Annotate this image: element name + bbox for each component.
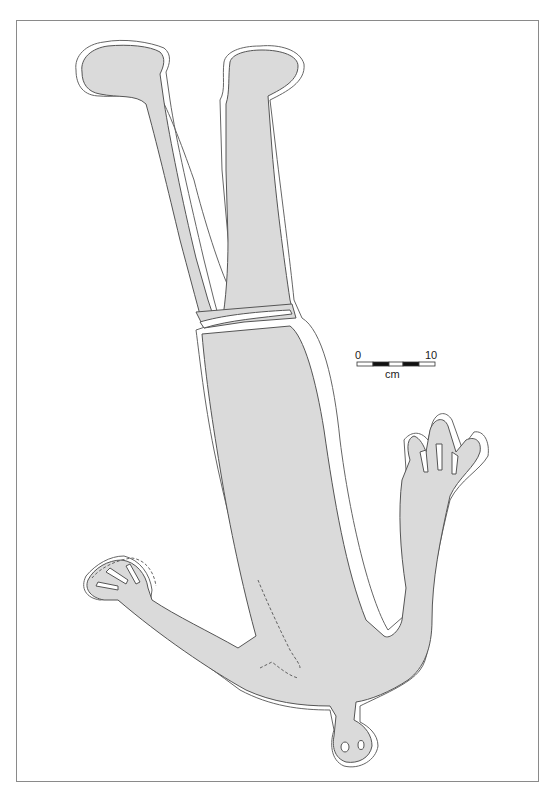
scale-unit-label: cm [385,368,400,380]
right-eye [358,741,364,750]
scale-segment-3 [389,362,403,366]
scale-end-label: 10 [425,349,437,361]
left-eye [341,742,349,752]
figure-drawing: 0 10 cm [0,0,549,796]
figure-silhouette [82,45,481,762]
scale-segment-5 [419,362,435,366]
scale-start-label: 0 [355,349,361,361]
scale-bar: 0 10 cm [355,349,437,380]
scale-segment-1 [357,362,373,366]
scale-segment-4 [403,362,419,366]
left-leg [82,45,214,322]
scale-segment-2 [373,362,389,366]
torso [87,326,480,762]
